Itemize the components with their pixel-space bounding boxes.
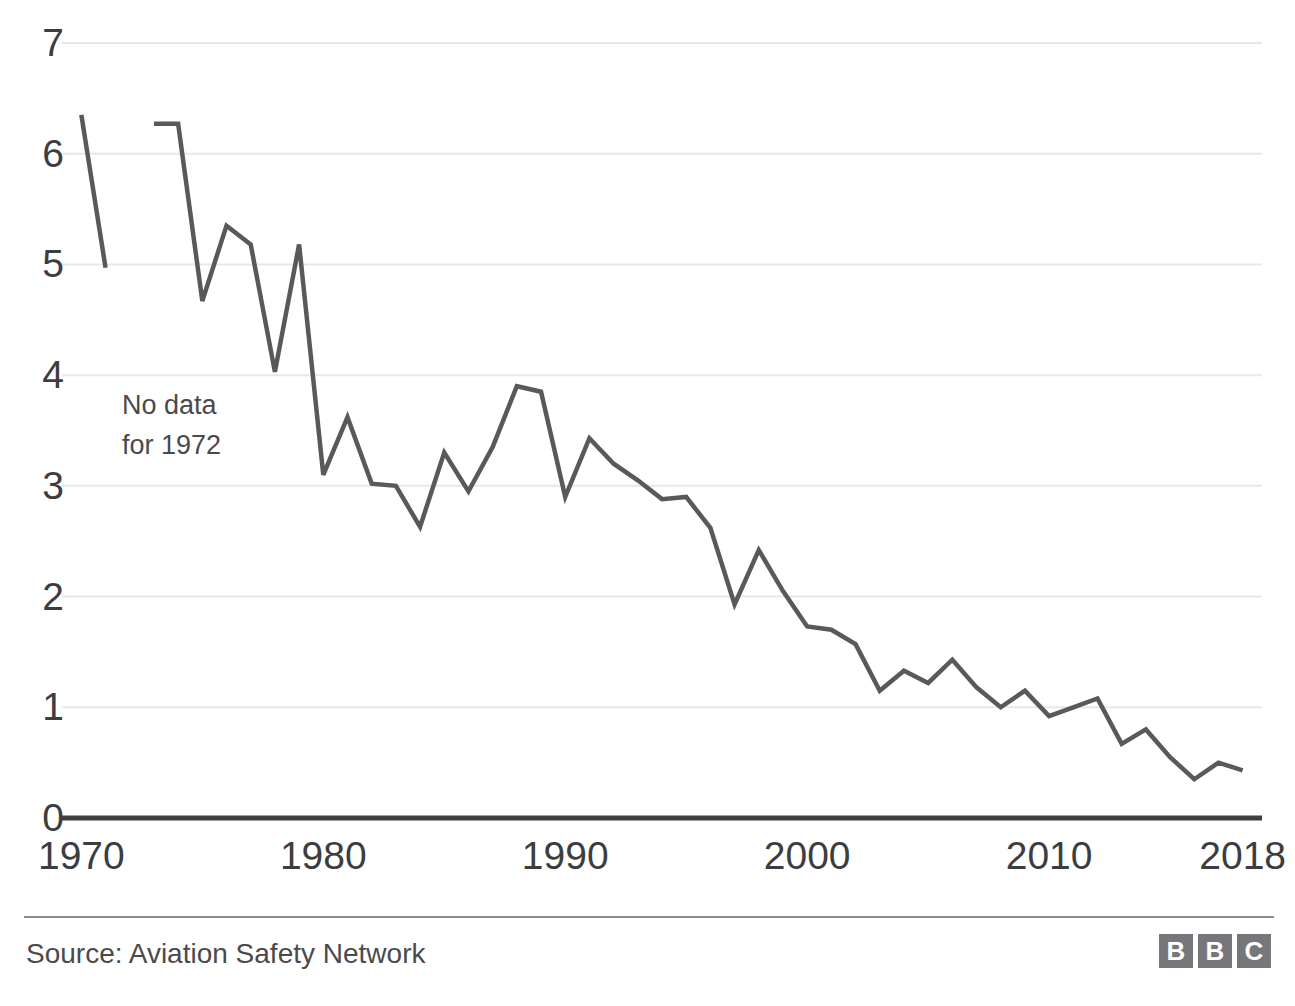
source-label: Source: Aviation Safety Network <box>26 936 425 972</box>
chart-figure: 76543210 No datafor 1972 197019801990200… <box>0 0 1295 1006</box>
y-axis-tick-label: 0 <box>18 798 64 837</box>
annotation-line-2: for 1972 <box>122 430 221 460</box>
x-axis-tick-label: 2018 <box>1199 836 1286 875</box>
x-axis-tick-labels: 197019801990200020102018 <box>0 836 1295 900</box>
series-line <box>154 124 1243 779</box>
x-axis-tick-label: 1970 <box>38 836 125 875</box>
x-axis-tick-label: 2000 <box>764 836 851 875</box>
y-axis-tick-label: 7 <box>18 23 64 62</box>
y-axis-tick-label: 6 <box>18 134 64 173</box>
chart-plot-area: 76543210 No datafor 1972 197019801990200… <box>0 0 1295 900</box>
y-axis-tick-label: 4 <box>18 355 64 394</box>
bbc-logo-letter: B <box>1159 934 1193 968</box>
y-axis-tick-label: 1 <box>18 687 64 726</box>
y-axis-tick-label: 2 <box>18 577 64 616</box>
no-data-annotation: No datafor 1972 <box>122 385 221 465</box>
chart-footer: Source: Aviation Safety Network BBC <box>0 916 1295 1006</box>
bbc-logo: BBC <box>1159 934 1271 968</box>
y-axis-tick-label: 3 <box>18 466 64 505</box>
x-axis-tick-label: 1990 <box>522 836 609 875</box>
gridlines <box>62 43 1262 707</box>
y-axis-tick-label: 5 <box>18 244 64 283</box>
series-line <box>81 115 105 268</box>
bbc-logo-letter: C <box>1237 934 1271 968</box>
annotation-line-1: No data <box>122 390 217 420</box>
x-axis-tick-label: 2010 <box>1006 836 1093 875</box>
x-axis-tick-label: 1980 <box>280 836 367 875</box>
y-axis-tick-labels: 76543210 <box>0 0 64 900</box>
footer-divider <box>24 916 1274 918</box>
bbc-logo-letter: B <box>1198 934 1232 968</box>
data-series-group <box>81 115 1242 779</box>
